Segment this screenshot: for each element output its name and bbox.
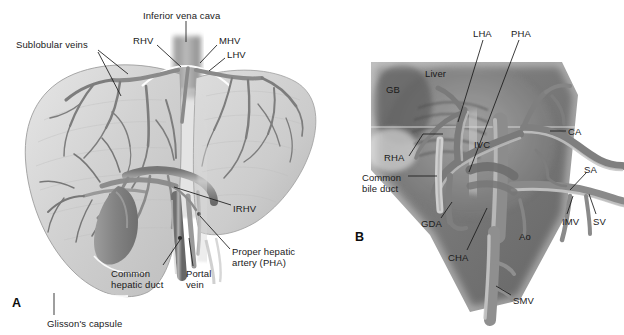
label-sublobular-veins: Sublobular veins: [16, 39, 88, 50]
panel-label-a: A: [12, 296, 21, 310]
label-cha: CHA: [448, 252, 468, 263]
label-ivc: IVC: [474, 139, 490, 150]
chd-lumen-dot: [178, 236, 182, 240]
panel-label-b: B: [355, 230, 364, 244]
label-pha-b: PHA: [511, 28, 531, 39]
label-ao: Ao: [519, 231, 531, 242]
figure-canvas: Inferior vena cava RHV MHV LHV Sublobula…: [0, 0, 624, 335]
label-common-hepatic-duct: Common hepatic duct: [111, 268, 163, 290]
label-glissons-capsule: Glisson's capsule: [47, 318, 122, 329]
label-liver: Liver: [425, 68, 446, 79]
label-mhv: MHV: [219, 35, 240, 46]
label-lhv: LHV: [227, 49, 246, 60]
label-gb: GB: [386, 84, 400, 95]
label-rhv: RHV: [133, 35, 153, 46]
label-proper-hepatic-artery: Proper hepatic artery (PHA): [232, 246, 295, 268]
label-irhv: IRHV: [233, 203, 256, 214]
label-common-bile-duct: Common bile duct: [362, 172, 401, 194]
label-lha: LHA: [473, 28, 492, 39]
label-rha: RHA: [384, 152, 404, 163]
label-sv: SV: [593, 216, 606, 227]
label-gda: GDA: [421, 218, 442, 229]
label-sa: SA: [584, 164, 597, 175]
label-smv: SMV: [513, 295, 534, 306]
leader-mhv: [200, 45, 217, 63]
label-portal-vein: Portal vein: [186, 268, 211, 290]
illustration-artwork: [0, 0, 624, 335]
label-inferior-vena-cava: Inferior vena cava: [143, 10, 220, 21]
leader-lhv: [209, 58, 225, 71]
label-ca: CA: [568, 126, 581, 137]
panel-b-artwork: [366, 58, 624, 320]
label-imv: IMV: [562, 216, 579, 227]
